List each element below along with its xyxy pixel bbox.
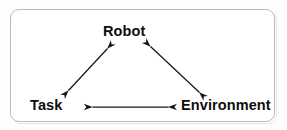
node-label-environment: Environment bbox=[181, 98, 271, 113]
node-label-robot: Robot bbox=[103, 24, 145, 39]
edge-robot-environment bbox=[151, 47, 200, 93]
edge-task-robot bbox=[69, 49, 108, 91]
figure-canvas: Robot Task Environment bbox=[0, 0, 287, 130]
node-label-task: Task bbox=[30, 98, 62, 113]
